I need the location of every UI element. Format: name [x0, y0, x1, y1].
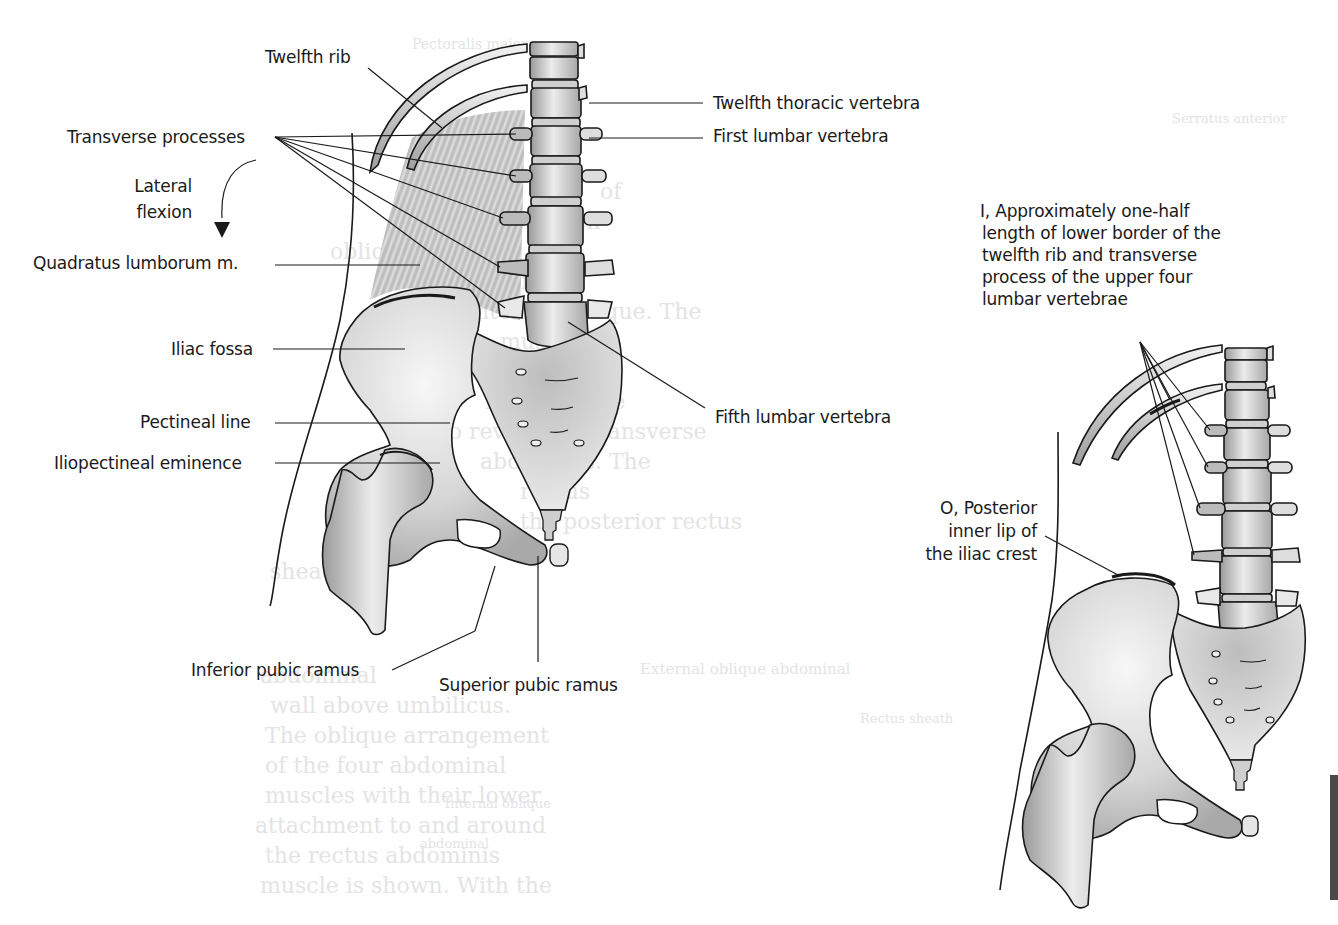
sacrum-right: [1170, 605, 1305, 760]
anatomy-figure: Pectoralis major of the abdomen oblique …: [0, 0, 1338, 925]
label-lateral-flexion-1: Lateral: [120, 175, 192, 197]
label-fifth-lumbar-vertebra: Fifth lumbar vertebra: [715, 406, 891, 428]
label-first-lumbar-vertebra: First lumbar vertebra: [713, 125, 888, 147]
insertion-label-line2: length of lower border of the: [982, 222, 1221, 244]
label-iliopectineal-eminence: Iliopectineal eminence: [54, 452, 242, 474]
origin-label-line2: inner lip of: [880, 520, 1037, 542]
page-edge-tab: [1330, 775, 1338, 900]
label-transverse-processes: Transverse processes: [67, 126, 245, 148]
label-lateral-flexion-2: flexion: [120, 201, 192, 223]
right-anatomy-view: [1000, 345, 1305, 908]
label-quadratus-lumborum: Quadratus lumborum m.: [33, 252, 238, 274]
leader-lines-right: [1045, 342, 1210, 575]
insertion-label-line5: lumbar vertebrae: [982, 288, 1128, 310]
label-twelfth-thoracic-vertebra: Twelfth thoracic vertebra: [713, 92, 920, 114]
insertion-label-line4: process of the upper four: [982, 266, 1192, 288]
insertion-label-line1: I, Approximately one-half: [980, 200, 1189, 222]
origin-label-line3: the iliac crest: [880, 543, 1037, 565]
label-twelfth-rib: Twelfth rib: [265, 46, 351, 68]
origin-label-line1: O, Posterior: [880, 497, 1037, 519]
pubic-symphysis: [550, 544, 568, 566]
sacrum: [470, 320, 622, 510]
insertion-label-line3: twelfth rib and transverse: [982, 244, 1197, 266]
label-inferior-pubic-ramus: Inferior pubic ramus: [191, 659, 359, 681]
label-superior-pubic-ramus: Superior pubic ramus: [439, 674, 618, 696]
label-pectineal-line: Pectineal line: [140, 411, 251, 433]
label-iliac-fossa: Iliac fossa: [171, 338, 253, 360]
left-anatomy-view: [270, 42, 622, 635]
lateral-flexion-arrow-head: [214, 222, 230, 238]
